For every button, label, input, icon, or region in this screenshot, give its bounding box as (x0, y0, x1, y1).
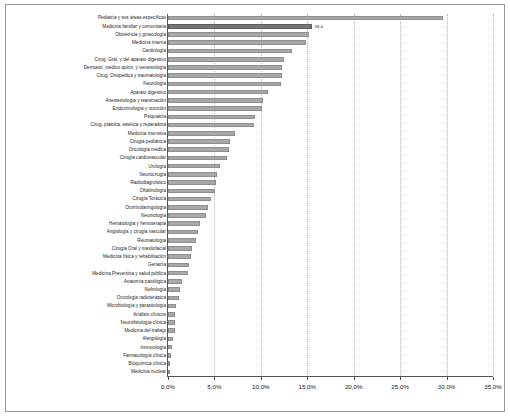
bar (168, 57, 284, 62)
category-label: Neurocirugía (12, 171, 166, 178)
category-label: Reumatología (12, 237, 166, 244)
category-label: Microbiología y parasitología (12, 302, 166, 309)
chart-container: Pediatría y sus áreas específicasMedicin… (0, 0, 510, 417)
category-label: Dermatol. médico quirúr. y venereología (12, 64, 166, 71)
bar (168, 172, 217, 177)
x-axis-tick-label: 5,0% (207, 383, 221, 390)
category-axis-labels: Pediatría y sus áreas específicasMedicin… (12, 14, 166, 376)
category-label: Cirugía Torácica (12, 195, 166, 202)
category-label: Medicina interna (12, 39, 166, 46)
bar (168, 106, 262, 111)
bar (168, 337, 173, 342)
bar (168, 82, 281, 87)
category-label: Anatomía patológica (12, 278, 166, 285)
bar (168, 115, 255, 120)
category-label: Cardiología (12, 47, 166, 54)
x-axis-tick-label: 30,0% (438, 383, 456, 390)
category-label: Nefrología (12, 286, 166, 293)
category-label: Neurología (12, 80, 166, 87)
x-axis-tick-label: 0,0% (161, 383, 175, 390)
bar (168, 304, 176, 309)
category-label: Radiodiagnóstico (12, 179, 166, 186)
category-label: Otorrinolaringología (12, 204, 166, 211)
gridline (493, 14, 494, 376)
category-label: Oncología radioterápica (12, 294, 166, 301)
bar (168, 164, 220, 169)
category-label: Alergología (12, 335, 166, 342)
y-axis-line (167, 14, 168, 377)
x-axis-tick (261, 377, 262, 380)
x-axis-tick (307, 377, 308, 380)
x-axis-tick-label: 20,0% (345, 383, 363, 390)
category-label: Obstetricia y ginecología (12, 31, 166, 38)
bar (168, 328, 175, 333)
bar (168, 147, 229, 152)
bar (168, 205, 208, 210)
bar (168, 320, 175, 325)
bar (168, 123, 254, 128)
x-axis-tick (168, 377, 169, 380)
bar (168, 213, 206, 218)
bar (168, 49, 292, 54)
category-label: Farmacología clínica (12, 352, 166, 359)
category-label: Cirugía cardiovascular (12, 154, 166, 161)
bar (168, 98, 263, 103)
category-label: Geriatría (12, 261, 166, 268)
category-label: Medicina nuclear (12, 368, 166, 375)
bar (168, 65, 282, 70)
bar (168, 156, 227, 161)
bar (168, 263, 189, 268)
category-label: Cirug. Gral. y del aparato digestivo (12, 56, 166, 63)
category-label: Medicina intensiva (12, 130, 166, 137)
category-label: Cirug. Ortopédica y traumatología (12, 72, 166, 79)
bar (168, 16, 443, 21)
x-axis-line: 0,0%5,0%10,0%15,0%20,0%25,0%30,0%35,0% (168, 376, 493, 377)
category-label: Inmunología (12, 344, 166, 351)
x-axis-tick (400, 377, 401, 380)
gridline (400, 14, 401, 376)
bar (168, 238, 196, 243)
category-label: Cirug. plástica, estética y reparadora (12, 121, 166, 128)
plot-area: 18,4 (168, 14, 493, 376)
category-label: Medicina física y rehabilitación (12, 253, 166, 260)
bar (168, 246, 192, 251)
category-label: Medicina Preventiva y salud pública (12, 270, 166, 277)
category-label: Pediatría y sus áreas específicas (12, 14, 166, 21)
category-label: Hematología y hemoterapia (12, 220, 166, 227)
bar (168, 296, 179, 301)
gridline (354, 14, 355, 376)
bar (168, 139, 230, 144)
category-label: Psiquiatría (12, 113, 166, 120)
bar (168, 73, 282, 78)
category-label: Oftalmología (12, 187, 166, 194)
bar (168, 271, 188, 276)
bar (168, 287, 180, 292)
bar (168, 312, 175, 317)
bar (168, 353, 171, 358)
x-axis-tick (493, 377, 494, 380)
gridline (447, 14, 448, 376)
bar (168, 131, 235, 136)
bar (168, 40, 306, 45)
bar (168, 24, 312, 29)
bar (168, 32, 309, 37)
bar (168, 189, 215, 194)
x-axis-tick-label: 10,0% (252, 383, 270, 390)
category-label: Neumología (12, 212, 166, 219)
x-axis-tick-label: 25,0% (391, 383, 409, 390)
x-axis-tick-label: 35,0% (484, 383, 502, 390)
category-label: Aparato digestivo (12, 89, 166, 96)
category-label: Cirugía Oral y maxilofacial (12, 245, 166, 252)
bar-value-label: 18,4 (314, 24, 323, 29)
x-axis-tick (354, 377, 355, 380)
category-label: Endocrinología y nutrición (12, 105, 166, 112)
category-label: Oncología médica (12, 146, 166, 153)
bar (168, 370, 170, 375)
category-label: Medicina del trabajo (12, 327, 166, 334)
category-label: Neurofisiología clínica (12, 319, 166, 326)
category-label: Anestesiología y reanimación (12, 97, 166, 104)
bar (168, 361, 170, 366)
x-axis-tick (214, 377, 215, 380)
x-axis-tick-label: 15,0% (299, 383, 317, 390)
bar (168, 180, 216, 185)
